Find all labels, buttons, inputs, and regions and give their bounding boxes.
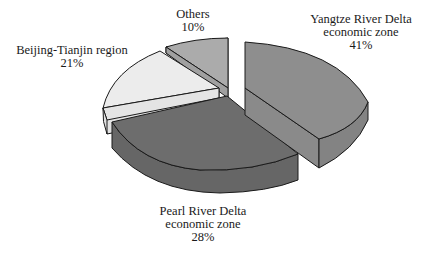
label-others: Others 10% — [168, 8, 218, 34]
label-pearl-pct: 28% — [148, 231, 258, 244]
label-yangtze: Yangtze River Delta economic zone 41% — [306, 13, 416, 52]
label-yangtze-pct: 41% — [306, 39, 416, 52]
label-beijing-tianjin: Beijing-Tianjin region 21% — [12, 44, 132, 70]
label-beijing-pct: 21% — [12, 57, 132, 70]
label-pearl-river: Pearl River Delta economic zone 28% — [148, 205, 258, 244]
label-others-pct: 10% — [168, 21, 218, 34]
